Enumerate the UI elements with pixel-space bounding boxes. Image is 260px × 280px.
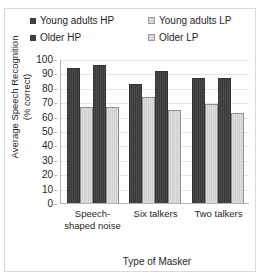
y-tick-label: 20 [42, 170, 53, 180]
y-tick-mark [54, 146, 57, 147]
legend-item-young-adults-lp: Young adults LP [148, 12, 252, 29]
legend-item-older-lp: Older LP [148, 29, 252, 46]
bar [155, 71, 168, 203]
bar [192, 78, 205, 203]
y-tick-label: 50 [42, 127, 53, 137]
bar-group [187, 60, 249, 203]
legend-item-young-adults-hp: Young adults HP [30, 12, 148, 29]
x-tick-label: Six talkers [124, 208, 187, 252]
bar [218, 78, 231, 203]
y-tick-mark [54, 118, 57, 119]
legend-label: Older HP [40, 32, 81, 43]
y-tick-mark [54, 190, 57, 191]
chart-legend: Young adults HP Young adults LP Older HP… [30, 12, 252, 46]
legend-label: Young adults LP [159, 15, 231, 26]
legend-swatch-dark-icon [30, 18, 36, 24]
y-tick-label: 70 [42, 98, 53, 108]
bar [168, 110, 181, 203]
y-tick-label: 90 [42, 69, 53, 79]
legend-item-older-hp: Older HP [30, 29, 148, 46]
bar [231, 113, 244, 203]
bar-group [124, 60, 186, 203]
bar [205, 104, 218, 203]
y-tick-label: 40 [42, 141, 53, 151]
legend-label: Young adults HP [40, 15, 114, 26]
legend-label: Older LP [159, 32, 198, 43]
y-tick-label: 80 [42, 84, 53, 94]
y-tick-mark [54, 89, 57, 90]
y-tick-label: 60 [42, 113, 53, 123]
y-tick-mark [54, 103, 57, 104]
y-tick-label: 100 [36, 55, 53, 65]
y-tick-label: 30 [42, 156, 53, 166]
bar [142, 97, 155, 203]
y-tick-mark [54, 204, 57, 205]
bar [106, 107, 119, 203]
y-tick-mark [54, 132, 57, 133]
y-tick-mark [54, 175, 57, 176]
y-tick-mark [54, 161, 57, 162]
bar-group [62, 60, 124, 203]
plot-area [60, 60, 249, 204]
chart-figure: Young adults HP Young adults LP Older HP… [0, 0, 260, 280]
x-axis-category-labels: Speech-shaped noiseSix talkersTwo talker… [61, 208, 250, 252]
y-tick-mark [54, 60, 57, 61]
x-tick-label: Two talkers [187, 208, 250, 252]
bar [93, 65, 106, 203]
bar [67, 68, 80, 203]
legend-swatch-light-icon [148, 34, 155, 41]
x-axis-title: Type of Masker [60, 256, 254, 267]
bar-groups [62, 60, 249, 203]
bar [129, 84, 142, 203]
y-axis-ticks: 1009080706050403020100 [0, 60, 57, 204]
x-tick-label: Speech-shaped noise [61, 208, 124, 252]
y-tick-label: 10 [42, 185, 53, 195]
bar [80, 107, 93, 203]
y-tick-label: 0 [47, 199, 53, 209]
y-tick-mark [54, 74, 57, 75]
legend-swatch-light-icon [148, 17, 155, 24]
